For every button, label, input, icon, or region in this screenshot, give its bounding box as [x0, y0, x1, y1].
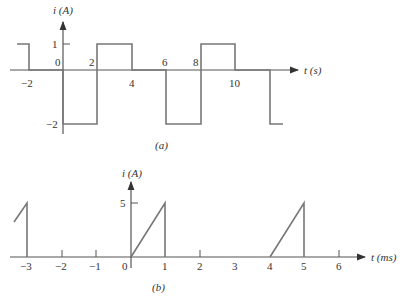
- x-tick-label-6: 6: [162, 56, 168, 68]
- x-tick-label-4: 4: [129, 77, 135, 89]
- x-axis-label-b: t (ms): [371, 251, 397, 264]
- waveform-b-ramp2: [270, 203, 304, 257]
- y-tick-label-5: 5: [120, 197, 126, 209]
- chart-b: i (A) t (ms) 5 −3 −2 −1 0 1 2 3 4 5 6 (b…: [10, 167, 397, 294]
- x-tick-label-0: 0: [55, 56, 61, 68]
- y-tick-label-m2: −2: [46, 118, 58, 130]
- x-tick-label-m2: −2: [21, 77, 33, 89]
- x-tick-label-0b: 0: [122, 260, 128, 272]
- x-tick-label-1: 1: [162, 260, 168, 272]
- subtitle-a: (a): [155, 139, 168, 152]
- waveform-b-ramp1: [131, 203, 165, 257]
- x-tick-label-10: 10: [229, 77, 241, 89]
- x-tick-label-2: 2: [89, 56, 95, 68]
- x-axis-label-a: t (s): [304, 64, 322, 77]
- y-axis-label-b: i (A): [122, 167, 142, 180]
- x-tick-label-5: 5: [301, 260, 307, 272]
- figure: i (A) t (s) 1 −2 0 2 6 8 −2 4 10 (a) i (…: [0, 0, 403, 301]
- chart-a: i (A) t (s) 1 −2 0 2 6 8 −2 4 10 (a): [10, 4, 322, 152]
- x-tick-label-6b: 6: [336, 260, 342, 272]
- x-tick-label-2b: 2: [197, 260, 203, 272]
- x-tick-label-4b: 4: [267, 260, 273, 272]
- y-axis-label-a: i (A): [53, 4, 73, 17]
- x-tick-label-m1: −1: [89, 260, 101, 272]
- y-tick-label-1: 1: [52, 38, 58, 50]
- x-tick-label-8: 8: [193, 56, 199, 68]
- waveform-b: [14, 203, 27, 257]
- x-tick-label-3: 3: [232, 260, 238, 272]
- x-tick-label-m3: −3: [20, 260, 32, 272]
- subtitle-b: (b): [152, 281, 165, 294]
- x-tick-label-m2b: −2: [55, 260, 67, 272]
